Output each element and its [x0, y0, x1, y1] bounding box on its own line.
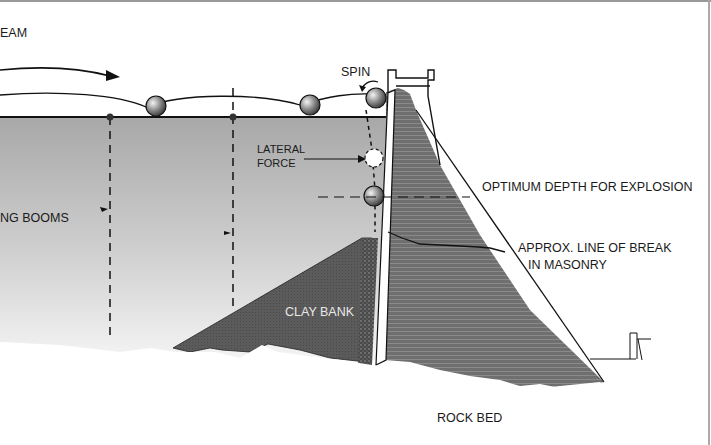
bomb-sinking-ghost — [365, 149, 383, 167]
label-line-of-break-line2: IN MASONRY — [528, 258, 608, 272]
label-stream: EAM — [0, 26, 27, 40]
label-rock-bed: ROCK BED — [437, 411, 502, 425]
bomb-at-dam — [366, 88, 386, 108]
label-lateral-force-line2: FORCE — [257, 157, 296, 169]
downstream-building — [630, 333, 651, 360]
bouncing-bomb-dam-diagram: EAM NG BOOMS SPIN LATERAL FORCE OPTIMUM … — [0, 0, 711, 445]
boom-float-1 — [107, 114, 114, 121]
label-clay-bank: CLAY BANK — [285, 305, 355, 319]
label-spin: SPIN — [341, 65, 370, 79]
arrowhead-icon — [106, 70, 120, 81]
trajectory-arrow — [0, 68, 110, 76]
bomb-bounce-1 — [146, 96, 166, 116]
label-torpedo-booms: NG BOOMS — [0, 211, 69, 225]
boom-float-2 — [230, 114, 237, 121]
dam-masonry — [385, 88, 604, 388]
label-lateral-force-line1: LATERAL — [257, 143, 305, 155]
label-optimum-depth: OPTIMUM DEPTH FOR EXPLOSION — [482, 180, 692, 194]
bomb-at-optimum-depth — [364, 186, 384, 206]
bomb-bounce-2 — [300, 95, 320, 115]
spin-arrowhead-icon — [359, 85, 366, 92]
label-line-of-break-line1: APPROX. LINE OF BREAK — [518, 241, 672, 255]
